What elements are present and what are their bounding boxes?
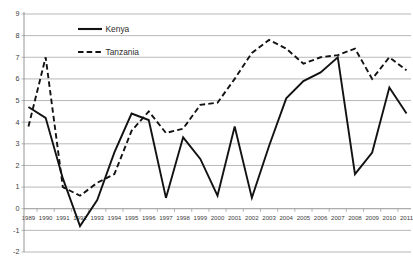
x-tick-label-2009: 2009 xyxy=(365,214,379,221)
x-tick-label-2006: 2006 xyxy=(314,214,328,221)
line-chart: -2-10123456789 1989199019911992199319941… xyxy=(0,0,413,257)
x-tick-label-1997: 1997 xyxy=(159,214,173,221)
y-tick-label--1: -1 xyxy=(13,226,19,235)
y-tick-label--2: -2 xyxy=(13,247,19,256)
x-axis-tick-labels: 1989199019911992199319941995199619971998… xyxy=(22,214,413,221)
x-tick-label-1994: 1994 xyxy=(108,214,122,221)
y-tick-label-2: 2 xyxy=(16,161,20,170)
chart-legend: KenyaTanzania xyxy=(78,24,139,57)
y-tick-label-4: 4 xyxy=(16,118,20,127)
y-tick-label-9: 9 xyxy=(16,9,20,18)
x-tick-label-2007: 2007 xyxy=(331,214,345,221)
y-tick-label-5: 5 xyxy=(16,96,20,105)
x-tick-label-1993: 1993 xyxy=(90,214,104,221)
chart-canvas: -2-10123456789 1989199019911992199319941… xyxy=(0,0,413,257)
y-tick-label-8: 8 xyxy=(16,31,20,40)
series-line-tanzania xyxy=(28,40,406,196)
legend-label-tanzania: Tanzania xyxy=(106,47,140,57)
x-tick-label-1991: 1991 xyxy=(56,214,70,221)
x-tick-label-1999: 1999 xyxy=(194,214,208,221)
x-tick-label-2002: 2002 xyxy=(245,214,259,221)
y-tick-label-3: 3 xyxy=(16,139,20,148)
x-tick-label-1996: 1996 xyxy=(142,214,156,221)
y-tick-label-0: 0 xyxy=(16,204,20,213)
x-tick-label-2001: 2001 xyxy=(228,214,242,221)
y-tick-label-1: 1 xyxy=(16,182,20,191)
x-tick-label-1995: 1995 xyxy=(125,214,139,221)
x-tick-label-2000: 2000 xyxy=(211,214,225,221)
legend-label-kenya: Kenya xyxy=(106,24,130,34)
x-tick-label-2011: 2011 xyxy=(400,214,413,221)
x-tick-label-2008: 2008 xyxy=(348,214,362,221)
x-tick-label-1998: 1998 xyxy=(176,214,190,221)
x-tick-label-1990: 1990 xyxy=(39,214,53,221)
x-tick-label-2005: 2005 xyxy=(297,214,311,221)
y-tick-label-7: 7 xyxy=(16,53,20,62)
data-series xyxy=(28,40,406,226)
y-tick-label-6: 6 xyxy=(16,74,20,83)
x-tick-label-2004: 2004 xyxy=(279,214,293,221)
x-tick-label-2010: 2010 xyxy=(383,214,397,221)
series-line-kenya xyxy=(28,57,406,226)
x-tick-label-2003: 2003 xyxy=(262,214,276,221)
